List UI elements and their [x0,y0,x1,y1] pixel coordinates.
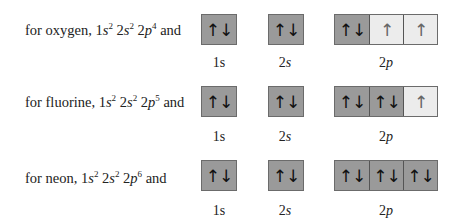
config-part: 2 [134,22,145,38]
label-2p: 2p [369,129,403,145]
label-num: 1 [213,55,220,70]
config-part: 2 [116,94,127,110]
label-num: 1 [213,129,220,144]
label-num: 2 [379,203,386,218]
orbital-1s-box: ↑↓ [201,160,237,191]
neon-row: for neon, 1s2 2s2 2p6 and ↑↓ ↑↓ ↑↓ ↑↓ ↑↓… [0,146,452,216]
orbital-cell: ↑↓ [269,87,303,116]
orbital-cell: ↑↓ [202,87,236,116]
label-1s: 1s [202,55,236,71]
label-1s: 1s [202,203,236,219]
label-2s: 2s [268,203,302,219]
label-num: 1 [213,203,220,218]
config-prefix: for oxygen, 1 [25,22,103,38]
label-letter: s [220,129,225,144]
config-part: 2 [98,170,109,186]
orbital-cell: ↑ [403,87,437,116]
orbital-cell: ↑↓ [269,15,303,44]
orbital-cell: ↑↓ [369,161,403,190]
orbital-cell: ↑↓ [269,161,303,190]
orbital-cell: ↑↓ [335,161,369,190]
orbital-1s-box: ↑↓ [201,86,237,117]
config-part: 2 [119,170,130,186]
orbital-cell: ↑↓ [403,161,437,190]
orbital-cell: ↑↓ [335,15,369,44]
label-2s: 2s [268,55,302,71]
label-letter: s [220,203,225,218]
orbital-cell: ↑↓ [369,87,403,116]
orbital-cell: ↑↓ [202,161,236,190]
orbital-2p-box: ↑↓ ↑ ↑ [334,14,438,45]
label-2p: 2p [369,55,403,71]
label-letter: p [386,129,393,144]
orbital-cell: ↑↓ [335,87,369,116]
label-1s: 1s [202,129,236,145]
orbital-cell: ↑ [369,15,403,44]
orbital-2p-box: ↑↓ ↑↓ ↑ [334,86,438,117]
config-part: and [160,94,185,110]
label-2s: 2s [268,129,302,145]
config-part: p [130,170,137,186]
fluorine-configuration: for fluorine, 1s2 2s2 2p5 and [25,94,184,111]
neon-configuration: for neon, 1s2 2s2 2p6 and [25,170,167,187]
orbital-2s-box: ↑↓ [268,86,304,117]
fluorine-row: for fluorine, 1s2 2s2 2p5 and ↑↓ ↑↓ ↑↓ ↑… [0,72,452,142]
label-letter: s [220,55,225,70]
orbital-1s-box: ↑↓ [201,14,237,45]
oxygen-row: for oxygen, 1s2 2s2 2p4 and ↑↓ ↑↓ ↑↓ ↑ ↑… [0,0,452,70]
orbital-cell: ↑ [403,15,437,44]
orbital-2p-box: ↑↓ ↑↓ ↑↓ [334,160,438,191]
label-letter: p [386,55,393,70]
config-part: p [145,22,152,38]
label-letter: s [286,129,291,144]
label-num: 2 [279,55,286,70]
label-letter: p [386,203,393,218]
orbital-2s-box: ↑↓ [268,14,304,45]
config-part: and [142,170,167,186]
config-part: 2 [113,22,124,38]
label-num: 2 [379,129,386,144]
config-prefix: for neon, 1 [25,170,88,186]
label-2p: 2p [369,203,403,219]
label-letter: s [286,55,291,70]
label-num: 2 [379,55,386,70]
orbital-cell: ↑↓ [202,15,236,44]
label-letter: s [286,203,291,218]
oxygen-configuration: for oxygen, 1s2 2s2 2p4 and [25,22,181,39]
label-num: 2 [279,129,286,144]
label-num: 2 [279,203,286,218]
config-part: and [157,22,182,38]
orbital-2s-box: ↑↓ [268,160,304,191]
config-prefix: for fluorine, 1 [25,94,106,110]
config-part: 2 [137,94,148,110]
